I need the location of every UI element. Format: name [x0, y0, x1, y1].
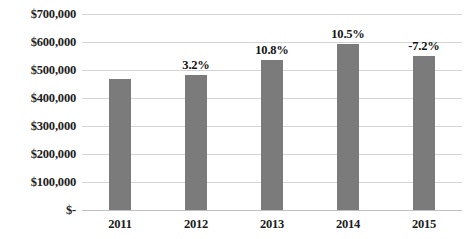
bar: [413, 56, 435, 210]
x-axis-tick-label: 2013: [237, 217, 307, 232]
y-axis-tick-label: $600,000: [0, 35, 76, 50]
bar-data-label: 10.5%: [313, 27, 383, 42]
x-axis-tick-label: 2015: [389, 217, 459, 232]
bar-data-label: 10.8%: [237, 43, 307, 58]
x-axis-tick-label: 2014: [313, 217, 383, 232]
axis-baseline: [82, 210, 462, 211]
bar: [185, 75, 207, 210]
bar-chart: $700,000$600,000$500,000$400,000$300,000…: [0, 0, 467, 239]
y-axis-tick-label: $200,000: [0, 147, 76, 162]
y-axis-tick-label: $400,000: [0, 91, 76, 106]
x-axis-tick-label: 2012: [161, 217, 231, 232]
y-axis-tick-label: $500,000: [0, 63, 76, 78]
x-axis-tick-label: 2011: [85, 217, 155, 232]
y-axis-tick-label: $300,000: [0, 119, 76, 134]
bar: [109, 79, 131, 210]
bar-data-label: 3.2%: [161, 58, 231, 73]
y-axis-tick-label: $-: [0, 203, 76, 218]
y-axis-tick-label: $700,000: [0, 7, 76, 22]
gridline: [82, 14, 462, 15]
bar: [337, 44, 359, 210]
y-axis-tick-label: $100,000: [0, 175, 76, 190]
bar-data-label: -7.2%: [389, 39, 459, 54]
y-axis-tick-labels: $700,000$600,000$500,000$400,000$300,000…: [0, 0, 76, 239]
bar: [261, 60, 283, 210]
